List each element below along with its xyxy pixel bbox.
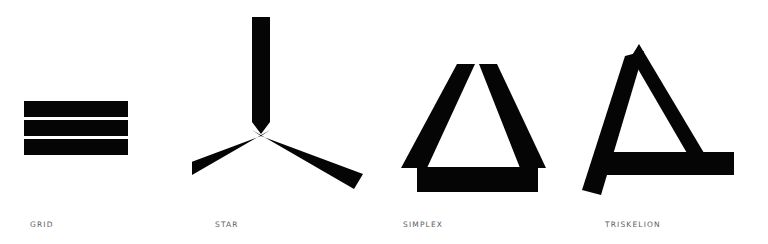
triskelion-glyph-icon (576, 0, 768, 205)
figure-star-caption: STAR (192, 220, 407, 230)
figure-simplex-caption: SIMPLEX (384, 220, 595, 230)
star-glyph-box (192, 0, 384, 205)
grid-glyph-box (0, 0, 192, 205)
simplex-glyph-icon (384, 0, 576, 205)
simplex-glyph-box (384, 0, 576, 205)
figure-triskelion-caption: TRISKELION (576, 220, 768, 230)
triskelion-glyph-box (576, 0, 768, 205)
figure-grid: GRID (0, 0, 192, 244)
grid-glyph-icon (0, 0, 192, 205)
figure-star: STAR (192, 0, 384, 244)
star-glyph-icon (192, 0, 384, 205)
figure-simplex: SIMPLEX (384, 0, 576, 244)
symbol-sheet: GRID STAR SIMPLE (0, 0, 768, 244)
figure-triskelion: TRISKELION (576, 0, 768, 244)
figure-grid-caption: GRID (0, 220, 222, 230)
